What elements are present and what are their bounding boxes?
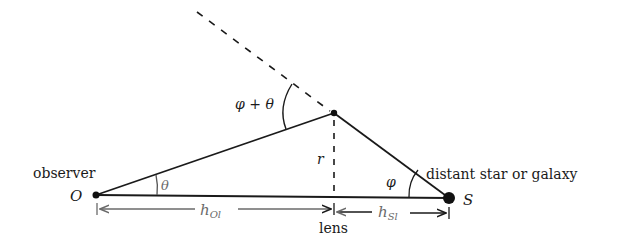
- lensing-diagram: observer O θ φ + θ r φ distant star or g…: [0, 0, 622, 248]
- phi-plus-theta-arc: [283, 84, 292, 129]
- observer-point-label: O: [70, 187, 82, 205]
- observer-label: observer: [33, 165, 96, 181]
- ray-observer-to-lens: [96, 113, 334, 195]
- radius-label: r: [317, 151, 325, 167]
- distance-ol-label: hOl: [200, 201, 221, 220]
- theta-label: θ: [161, 178, 169, 193]
- theta-arc: [156, 175, 157, 195]
- source-description-label: distant star or galaxy: [426, 166, 578, 182]
- phi-label: φ: [386, 174, 396, 190]
- deflection-point: [331, 110, 337, 116]
- source-point: [443, 192, 455, 204]
- source-point-label: S: [463, 191, 473, 209]
- baseline-observer-source: [96, 195, 449, 198]
- phi-plus-theta-label: φ + θ: [235, 96, 274, 112]
- observer-point: [93, 192, 100, 199]
- diagram-svg: observer O θ φ + θ r φ distant star or g…: [0, 0, 622, 248]
- lens-label: lens: [319, 220, 348, 236]
- distance-sl-label: hSl: [378, 203, 398, 222]
